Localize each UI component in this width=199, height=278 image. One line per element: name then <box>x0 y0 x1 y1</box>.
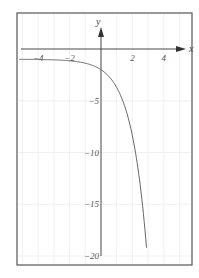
y-tick-label: −15 <box>84 199 100 209</box>
y-axis-label: y <box>95 16 101 27</box>
x-tick-label: 2 <box>130 53 135 63</box>
x-tick-labels: −4−224 <box>33 53 167 63</box>
x-axis-label: x <box>188 43 194 54</box>
x-axis-arrow-icon <box>176 46 186 52</box>
y-axis-arrow-icon <box>98 27 104 37</box>
x-tick-label: 4 <box>162 53 167 63</box>
y-tick-label: −10 <box>84 148 100 158</box>
y-tick-labels: −5−10−15−20 <box>84 96 100 261</box>
y-tick-label: −5 <box>88 96 99 106</box>
x-tick-label: −4 <box>33 53 44 63</box>
axes: x y <box>21 16 194 256</box>
plot-frame <box>17 13 192 265</box>
function-plot: x y −4−224 −5−10−15−20 <box>0 0 199 278</box>
y-tick-label: −20 <box>84 251 100 261</box>
grid-lines <box>18 14 191 264</box>
